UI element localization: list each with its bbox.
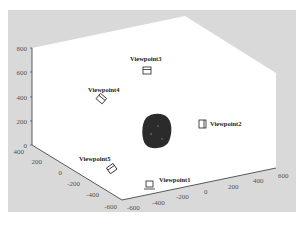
viewpoint1-label: Viewpoint1 (159, 176, 191, 183)
x-tick-400: 400 (253, 177, 264, 185)
viewpoint2-label: Viewpoint2 (210, 120, 242, 127)
figure: 0 200 400 600 800 400 200 0 -200 -400 -6… (0, 0, 305, 226)
y-tick-neg200: -200 (67, 180, 80, 188)
viewpoint3-label: Viewpoint3 (130, 55, 162, 62)
y-tick-0: 0 (59, 169, 63, 177)
point-cloud-object (142, 114, 171, 148)
y-tick-neg400: -400 (86, 191, 99, 199)
z-tick-200: 200 (17, 118, 28, 126)
x-tick-neg400: -400 (152, 199, 165, 207)
x-tick-0: 0 (204, 188, 208, 196)
x-tick-neg600: -600 (127, 204, 140, 212)
x-tick-neg200: -200 (176, 193, 189, 201)
z-tick-800: 800 (17, 45, 28, 53)
y-tick-400: 400 (14, 148, 25, 156)
z-tick-0: 0 (24, 142, 28, 150)
y-tick-neg600: -600 (104, 203, 117, 211)
viewpoint4-label: Viewpoint4 (88, 86, 120, 93)
x-tick-600: 600 (278, 172, 289, 180)
y-tick-200: 200 (32, 158, 43, 166)
viewpoint5-label: Viewpoint5 (79, 155, 111, 162)
z-tick-600: 600 (17, 69, 28, 77)
z-tick-400: 400 (17, 94, 28, 102)
x-tick-200: 200 (228, 183, 239, 191)
